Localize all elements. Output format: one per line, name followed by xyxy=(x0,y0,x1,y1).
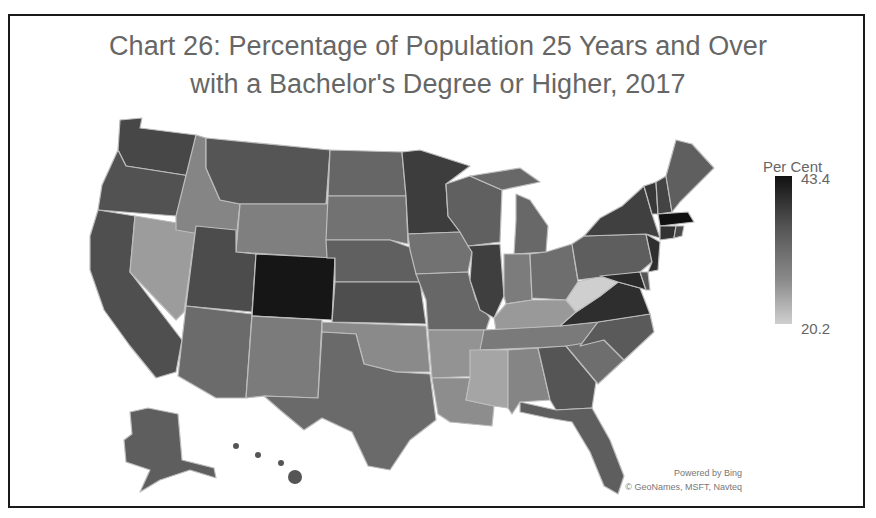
state-north-dakota[interactable] xyxy=(328,150,406,196)
legend-min-value: 20.2 xyxy=(801,320,830,337)
state-nebraska[interactable] xyxy=(326,240,420,282)
state-arizona[interactable] xyxy=(178,306,252,398)
map-data-credit: © GeoNames, MSFT, Navteq xyxy=(625,482,742,492)
legend-max-value: 43.4 xyxy=(801,170,830,187)
state-kansas[interactable] xyxy=(332,282,426,324)
state-wyoming[interactable] xyxy=(236,204,330,258)
state-mississippi[interactable] xyxy=(466,350,508,408)
state-massachusetts[interactable] xyxy=(658,212,694,226)
state-florida[interactable] xyxy=(520,402,624,494)
us-choropleth-map xyxy=(0,0,876,518)
state-iowa[interactable] xyxy=(408,232,472,274)
legend-color-scale xyxy=(775,176,792,324)
state-montana[interactable] xyxy=(206,138,330,204)
state-alaska[interactable] xyxy=(124,408,216,492)
state-indiana[interactable] xyxy=(504,254,532,304)
powered-by-credit: Powered by Bing xyxy=(674,468,742,478)
state-colorado[interactable] xyxy=(252,254,335,320)
state-hawaii-island[interactable] xyxy=(288,470,302,484)
state-maine[interactable] xyxy=(666,140,714,212)
state-south-dakota[interactable] xyxy=(326,196,408,244)
state-hawaii-kauai xyxy=(233,443,239,449)
ghost-map-label xyxy=(290,94,293,106)
state-rhode-island[interactable] xyxy=(674,226,684,238)
state-hawaii-maui xyxy=(278,460,284,466)
state-new-mexico[interactable] xyxy=(246,316,322,398)
state-hawaii-oahu xyxy=(255,452,261,458)
